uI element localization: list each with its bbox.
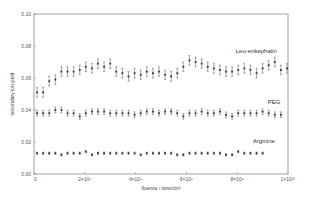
data-point [243,64,245,74]
data-point [249,110,251,116]
data-point [188,110,190,116]
data-point [121,110,123,116]
data-point [256,152,258,154]
series-label: Leu-enkephalin [236,48,277,54]
data-point [158,67,160,77]
data-point [280,112,282,118]
data-point [97,152,99,154]
data-point [121,152,123,154]
data-point [42,88,44,98]
data-point [115,67,117,77]
data-point [201,109,203,115]
x-tick-label: 2×10⁹ [78,176,91,182]
data-point [176,154,178,156]
y-tick-label: 0.10 [21,11,31,17]
data-point [85,110,87,116]
data-point [170,109,172,115]
data-point [213,110,215,116]
x-tick-label: 0 [34,176,37,182]
data-point [109,59,111,69]
data-point [48,152,50,154]
x-tick-label: 1×10¹⁰ [281,176,296,182]
data-point [164,70,166,80]
x-tick-label: 6×10⁹ [180,176,193,182]
data-point [134,152,136,154]
data-point [256,110,258,116]
data-point [54,152,56,154]
data-point [36,110,38,116]
data-point [97,59,99,69]
data-point [225,67,227,77]
x-axis-ticks: 02×10⁹4×10⁹6×10⁹8×10⁹1×10¹⁰ [34,172,295,182]
data-point [195,152,197,154]
data-point [152,109,154,115]
data-point [115,110,117,116]
y-axis-title: secondary ion yield [9,72,15,115]
data-point [207,152,209,154]
data-point [164,109,166,115]
data-point [195,110,197,116]
series-label: PEG [268,99,281,105]
data-point [140,154,142,156]
data-point [170,152,172,154]
data-point [97,109,99,115]
data-point [237,110,239,116]
data-point [152,152,154,154]
data-point [103,152,105,154]
data-point [54,107,56,113]
data-point [170,72,172,82]
data-point [79,65,81,75]
series-layer [36,56,288,156]
data-point [243,110,245,116]
data-point [79,152,81,154]
data-point [176,68,178,78]
data-point [213,64,215,74]
data-point [207,110,209,116]
data-point [262,109,264,115]
data-point [109,110,111,116]
data-point [237,150,239,152]
data-point [67,152,69,154]
data-point [79,114,81,120]
data-point [219,65,221,75]
data-point [231,114,233,120]
data-point [207,62,209,72]
y-tick-label: 0.08 [21,43,31,49]
data-point [140,110,142,116]
data-point [36,88,38,98]
data-point [243,152,245,154]
data-point [225,112,227,118]
chart: 0.000.020.040.060.080.10 02×10⁹4×10⁹6×10… [0,0,315,203]
y-tick-label: 0.00 [21,171,31,177]
data-point [140,70,142,80]
data-point [268,60,270,70]
data-point [158,110,160,116]
data-point [231,154,233,156]
data-point [249,65,251,75]
data-point [134,112,136,118]
data-point [67,110,69,116]
data-point [73,67,75,77]
data-point [109,152,111,154]
data-point [73,110,75,116]
data-point [262,152,264,154]
data-point [219,109,221,115]
y-tick-label: 0.04 [21,107,31,113]
data-point [54,75,56,85]
data-point [182,62,184,72]
data-point [48,110,50,116]
data-point [60,154,62,156]
data-point [91,64,93,74]
data-point [36,152,38,154]
data-point [231,67,233,77]
data-point [164,152,166,154]
data-point [115,152,117,154]
data-point [73,152,75,154]
data-point [237,65,239,75]
data-point [256,68,258,78]
data-point [42,152,44,154]
data-point [182,154,184,156]
plot-frame [34,14,288,174]
data-point [225,154,227,156]
series-leu-enkephalin [36,56,288,98]
